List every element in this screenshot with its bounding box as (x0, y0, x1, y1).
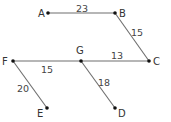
edge-weight-f-g: 15 (41, 64, 53, 75)
edge-weight-g-c: 13 (111, 50, 123, 61)
node-b-dot (113, 11, 117, 15)
node-label-c: C (153, 56, 160, 67)
node-label-d: D (118, 108, 126, 119)
edge-weight-f-e: 20 (17, 83, 29, 94)
weighted-graph-diagram: 231513152018 ABCFGED (0, 0, 171, 122)
node-label-e: E (37, 108, 43, 119)
node-f-dot (11, 59, 15, 63)
edge-weight-b-c: 15 (131, 27, 143, 38)
node-d-dot (113, 106, 117, 110)
node-label-f: F (2, 56, 8, 67)
node-a-dot (46, 11, 50, 15)
node-label-g: G (76, 45, 84, 56)
node-label-a: A (38, 8, 45, 19)
node-g-dot (79, 59, 83, 63)
node-label-b: B (119, 8, 126, 19)
node-e-dot (45, 106, 49, 110)
edge-weight-a-b: 23 (76, 3, 88, 14)
node-c-dot (147, 59, 151, 63)
edge-weight-g-d: 18 (98, 77, 110, 88)
node-labels: ABCFGED (2, 8, 160, 119)
